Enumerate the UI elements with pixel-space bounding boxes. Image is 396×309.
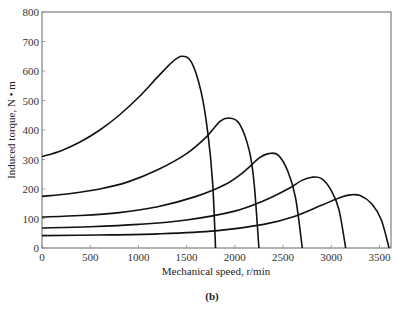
y-tick-label: 600 <box>23 65 40 77</box>
x-tick-label: 2500 <box>272 251 295 263</box>
y-tick-label: 500 <box>23 95 40 107</box>
curves <box>42 56 389 248</box>
axes: 0500100015002000250030003500010020030040… <box>23 6 392 263</box>
y-tick-label: 400 <box>23 124 40 136</box>
x-tick-label: 1500 <box>176 251 199 263</box>
y-tick-label: 300 <box>23 154 40 166</box>
torque-curve-curve-3150 <box>42 177 346 248</box>
y-tick-label: 800 <box>23 6 40 18</box>
torque-speed-chart: 0500100015002000250030003500010020030040… <box>0 0 396 309</box>
x-tick-label: 2000 <box>224 251 247 263</box>
y-tick-label: 100 <box>23 213 40 225</box>
y-axis-label: Induced torque, N • m <box>5 81 17 179</box>
x-tick-label: 3500 <box>368 251 391 263</box>
y-tick-label: 700 <box>23 36 40 48</box>
figure-caption: (b) <box>205 290 219 303</box>
x-axis-label: Mechanical speed, r/min <box>162 265 271 277</box>
torque-curve-curve-2250 <box>42 118 259 248</box>
x-tick-label: 500 <box>82 251 99 263</box>
x-tick-label: 0 <box>39 251 45 263</box>
x-tick-label: 3000 <box>320 251 343 263</box>
x-tick-label: 1000 <box>127 251 150 263</box>
plot-frame <box>42 12 391 248</box>
y-tick-label: 200 <box>23 183 40 195</box>
y-tick-label: 0 <box>34 242 40 254</box>
